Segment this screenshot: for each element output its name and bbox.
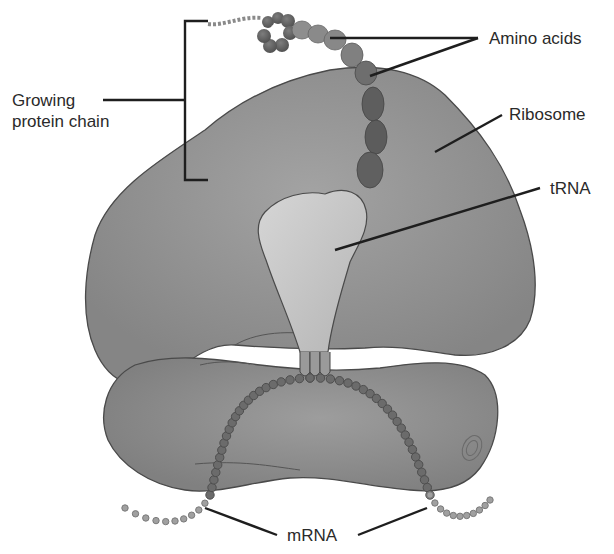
label-growing-protein-chain: Growing protein chain	[12, 90, 109, 132]
label-amino-acids: Amino acids	[489, 28, 582, 49]
mrna-leader-right	[358, 508, 427, 535]
ribosome-translation-diagram: Growing protein chain Amino acids Riboso…	[0, 0, 614, 554]
mrna-leader-left	[205, 508, 277, 535]
label-growing-line2: protein chain	[12, 111, 109, 132]
label-growing-line1: Growing	[12, 90, 109, 111]
label-mrna: mRNA	[287, 525, 337, 546]
diagram-artwork	[0, 0, 614, 554]
label-ribosome: Ribosome	[509, 104, 586, 125]
label-trna: tRNA	[550, 178, 591, 199]
amino-acids-leader-2	[370, 38, 478, 76]
